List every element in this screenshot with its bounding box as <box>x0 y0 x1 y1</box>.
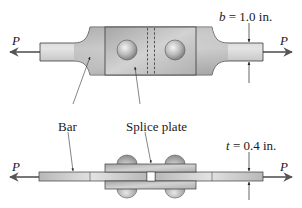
rivet-right-top <box>165 40 185 60</box>
splice-joint-diagram <box>0 0 302 208</box>
load-label-left-side: P <box>12 160 20 173</box>
callout-bar: Bar <box>58 120 77 133</box>
rivet-left-top <box>117 40 137 60</box>
leader-bar-top <box>73 57 90 104</box>
load-label-left-top: P <box>12 34 20 47</box>
dimension-t-label: t = 0.4 in. <box>226 139 276 152</box>
load-label-right-side: P <box>280 160 288 173</box>
side-view <box>10 152 292 200</box>
bar-left-side <box>39 172 147 181</box>
callout-splice-plate: Splice plate <box>126 120 187 133</box>
load-label-right-top: P <box>280 34 288 47</box>
dimension-t-value: = 0.4 in. <box>230 138 277 153</box>
leader-plate-side <box>145 132 151 163</box>
splice-plate-side-top <box>105 164 196 172</box>
bar-right-side <box>155 172 263 181</box>
top-view <box>10 23 292 83</box>
splice-plate-side-bottom <box>105 181 196 189</box>
dimension-b-value: = 1.0 in. <box>226 9 273 24</box>
dimension-b-label: b = 1.0 in. <box>219 10 272 23</box>
leader-bar-side <box>68 132 73 171</box>
